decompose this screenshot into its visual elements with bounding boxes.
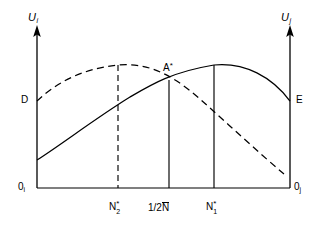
right-axis-title-subscript: j [289,17,291,24]
x-tick-n2-subscript: 2 [116,208,120,215]
x-tick-n1-base: N [206,201,213,212]
intersection-point-base: A [163,62,170,73]
right-axis [286,25,294,188]
left-origin-subscript: i [24,186,26,193]
solid-utility-curve [37,65,290,160]
x-tick-n1-subscript: 1 [213,208,217,215]
left-axis-title-subscript: i [36,17,38,24]
diagram-canvas [0,0,326,225]
x-tick-halfn-prefix: 1/2 [148,202,162,213]
x-tick-n2-superscript: * [116,200,119,208]
x-tick-label-n2-star: N2* [109,202,116,212]
right-axis-title: Uj [281,12,291,24]
left-origin-label: 0i [18,182,25,193]
x-tick-label-n1-star: N1* [206,202,213,212]
right-origin-subscript: j [300,186,302,193]
intersection-point-superscript: * [170,61,173,70]
x-tick-halfn-base: N [162,202,169,213]
left-axis-title: Ui [28,12,38,24]
x-tick-n1-stack: N1* [206,202,213,212]
left-axis [33,25,41,188]
x-tick-n1-superscript: * [213,200,216,208]
x-tick-label-half-n: 1/2N [148,202,169,213]
x-tick-n2-base: N [109,201,116,212]
left-axis-title-base: U [28,11,36,23]
left-intercept-label: D [21,95,28,105]
right-intercept-label: E [296,95,303,105]
intersection-point-label: A* [163,62,173,73]
figure-container: Ui Uj D E A* 0i 0j N2* 1/2N N1* [0,0,326,225]
right-origin-label: 0j [294,182,301,193]
right-axis-title-base: U [281,11,289,23]
x-tick-n2-stack: N2* [109,202,116,212]
